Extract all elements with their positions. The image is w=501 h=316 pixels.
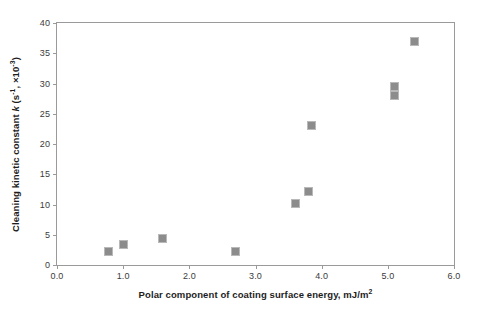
data-point-marker bbox=[307, 121, 316, 130]
data-point-marker bbox=[119, 240, 128, 249]
y-axis-title: Cleaning kinetic constant k (s-1, ×10-3) bbox=[8, 22, 22, 266]
x-tick-label: 5.0 bbox=[381, 271, 394, 281]
y-tick-label: 25 bbox=[40, 109, 50, 119]
y-tick-label: 35 bbox=[40, 48, 50, 58]
data-point-marker bbox=[410, 37, 419, 46]
data-point-marker bbox=[231, 247, 240, 256]
x-tick-mark bbox=[454, 265, 455, 269]
y-tick-label: 5 bbox=[45, 230, 50, 240]
y-tick-mark bbox=[53, 53, 57, 54]
x-tick-mark bbox=[57, 265, 58, 269]
x-tick-label: 3.0 bbox=[249, 271, 262, 281]
x-axis-title: Polar component of coating surface energ… bbox=[56, 289, 455, 300]
x-tick-mark bbox=[123, 265, 124, 269]
x-tick-label: 6.0 bbox=[448, 271, 461, 281]
y-tick-mark bbox=[53, 174, 57, 175]
y-tick-mark bbox=[53, 114, 57, 115]
x-tick-mark bbox=[388, 265, 389, 269]
scatter-chart-figure: Cleaning kinetic constant k (s-1, ×10-3)… bbox=[0, 0, 501, 316]
y-tick-mark bbox=[53, 205, 57, 206]
data-point-marker bbox=[304, 187, 313, 196]
plot-area: 05101520253035400.01.02.03.04.05.06.0 bbox=[56, 22, 455, 266]
x-tick-label: 0.0 bbox=[51, 271, 64, 281]
y-tick-mark bbox=[53, 84, 57, 85]
y-tick-mark bbox=[53, 235, 57, 236]
y-tick-mark bbox=[53, 23, 57, 24]
x-tick-label: 2.0 bbox=[183, 271, 196, 281]
x-tick-label: 4.0 bbox=[315, 271, 328, 281]
data-point-marker bbox=[390, 91, 399, 100]
y-tick-label: 30 bbox=[40, 79, 50, 89]
y-tick-label: 20 bbox=[40, 139, 50, 149]
x-tick-mark bbox=[189, 265, 190, 269]
data-point-marker bbox=[390, 82, 399, 91]
x-tick-mark bbox=[322, 265, 323, 269]
y-axis-title-text: Cleaning kinetic constant k (s-1, ×10-3) bbox=[10, 57, 21, 232]
y-tick-label: 10 bbox=[40, 200, 50, 210]
y-tick-label: 0 bbox=[45, 260, 50, 270]
x-tick-label: 1.0 bbox=[117, 271, 130, 281]
y-tick-label: 40 bbox=[40, 18, 50, 28]
y-tick-mark bbox=[53, 144, 57, 145]
x-tick-mark bbox=[256, 265, 257, 269]
x-axis-title-text: Polar component of coating surface energ… bbox=[139, 289, 373, 300]
data-point-marker bbox=[291, 199, 300, 208]
data-point-marker bbox=[104, 247, 113, 256]
y-tick-label: 15 bbox=[40, 169, 50, 179]
data-point-marker bbox=[158, 234, 167, 243]
